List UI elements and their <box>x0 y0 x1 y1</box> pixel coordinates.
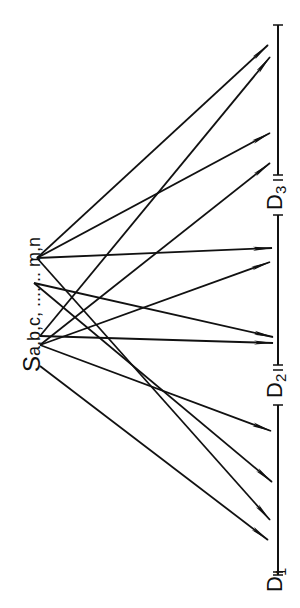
arrow-line <box>34 283 273 337</box>
arrow-line <box>40 262 270 345</box>
arrow-lines <box>34 45 273 540</box>
arrow-line <box>40 345 271 431</box>
arrow-line <box>40 57 270 336</box>
destination-label-d1: D1 <box>262 568 289 592</box>
destination-label-d3: D3 <box>262 186 289 210</box>
arrow-line <box>37 248 272 258</box>
arrow-line <box>37 45 268 258</box>
destination-label-d2: D2 <box>262 374 289 398</box>
destination-axis <box>273 25 283 575</box>
arrow-line <box>40 336 273 343</box>
source-label: Sa,b,c, ....... m,n <box>18 237 46 372</box>
arrow-line <box>40 366 268 540</box>
arrow-line <box>37 258 270 520</box>
